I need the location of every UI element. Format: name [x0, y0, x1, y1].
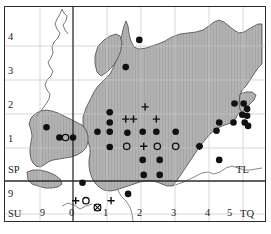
data-point-filled-circle	[231, 100, 238, 107]
data-point-crossed-circle	[94, 204, 101, 211]
data-point-filled-circle	[244, 112, 251, 119]
data-point-filled-circle	[136, 37, 143, 44]
data-point-filled-circle	[139, 128, 146, 135]
y-tick-2: 2	[8, 100, 13, 111]
data-point-filled-circle	[94, 128, 101, 135]
data-point-filled-circle	[216, 119, 223, 126]
grid-code-tl: TL	[236, 164, 249, 175]
data-point-filled-circle	[106, 119, 113, 126]
data-point-filled-circle	[244, 106, 251, 113]
x-tick-4: 4	[205, 208, 210, 219]
data-point-filled-circle	[124, 129, 131, 136]
data-point-filled-circle	[245, 123, 252, 130]
y-tick-4: 4	[8, 32, 13, 43]
distribution-map-figure: 4 3 2 1 9 SP SU TL TQ 9 0 1 2 3 4 5	[0, 0, 271, 234]
data-point-filled-circle	[156, 157, 163, 164]
data-point-filled-circle	[106, 109, 113, 116]
data-point-filled-circle	[122, 64, 129, 71]
data-point-filled-circle	[153, 128, 160, 135]
land-sw-lobe	[27, 170, 62, 188]
coastline-west	[37, 9, 68, 116]
data-point-filled-circle	[213, 127, 220, 134]
map-plot-canvas	[0, 0, 271, 234]
x-tick-0: 0	[69, 208, 74, 219]
data-point-filled-circle	[216, 157, 223, 164]
data-point-filled-circle	[240, 100, 247, 107]
grid-code-su: SU	[8, 208, 21, 219]
x-tick-5: 5	[227, 208, 232, 219]
data-point-filled-circle	[125, 191, 132, 198]
x-tick-9: 9	[40, 208, 45, 218]
x-tick-1: 1	[103, 208, 108, 219]
y-tick-9: 9	[8, 189, 13, 200]
data-point-filled-circle	[70, 134, 77, 141]
data-point-filled-circle	[79, 179, 86, 186]
data-point-filled-circle	[106, 128, 113, 135]
grid-code-tq: TQ	[240, 208, 254, 219]
data-point-open-circle	[83, 198, 89, 204]
data-point-plus	[107, 197, 114, 204]
data-point-filled-circle	[140, 172, 147, 179]
y-tick-1: 1	[8, 134, 13, 145]
y-tick-3: 3	[8, 66, 13, 77]
data-point-filled-circle	[230, 119, 237, 126]
x-tick-3: 3	[171, 208, 176, 219]
data-point-filled-circle	[156, 172, 163, 179]
data-point-filled-circle	[139, 157, 146, 164]
data-point-filled-circle	[172, 128, 179, 135]
x-tick-2: 2	[137, 208, 142, 219]
grid-code-sp: SP	[8, 164, 20, 175]
data-point-filled-circle	[106, 144, 113, 151]
data-point-filled-circle	[43, 124, 50, 131]
